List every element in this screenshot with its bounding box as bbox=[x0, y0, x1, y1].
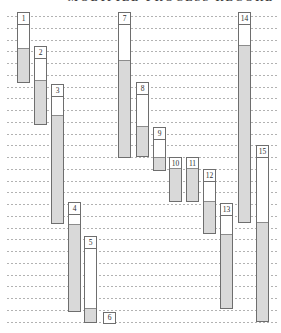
bar-number-label: 13 bbox=[221, 204, 232, 216]
process-bar-1: 1 bbox=[17, 12, 30, 83]
bar-number-label: 15 bbox=[257, 146, 268, 158]
chart-title: MODIFIED PROCESS RECORD bbox=[62, 0, 281, 3]
time-gridline bbox=[7, 228, 278, 229]
process-record-chart: MODIFIED PROCESS RECORD 1234567891011121… bbox=[0, 0, 281, 333]
process-bar-5: 5 bbox=[84, 236, 97, 323]
time-gridline bbox=[7, 286, 278, 287]
work-fill-segment bbox=[239, 45, 250, 222]
work-fill-segment bbox=[52, 115, 63, 223]
work-fill-segment bbox=[221, 234, 232, 308]
work-fill-segment bbox=[35, 80, 46, 124]
work-fill-segment bbox=[85, 308, 96, 322]
process-bar-10: 10 bbox=[169, 157, 182, 202]
process-bar-8: 8 bbox=[136, 82, 149, 157]
process-bar-14: 14 bbox=[238, 12, 251, 223]
time-gridline bbox=[7, 251, 278, 252]
time-gridline bbox=[7, 322, 278, 323]
work-fill-segment bbox=[154, 157, 165, 170]
time-gridline bbox=[7, 275, 278, 276]
process-bar-2: 2 bbox=[34, 46, 47, 125]
bar-number-label: 9 bbox=[154, 128, 165, 140]
process-bar-6: 6 bbox=[103, 312, 116, 324]
process-bar-4: 4 bbox=[68, 202, 81, 312]
process-bar-3: 3 bbox=[51, 84, 64, 224]
process-bar-13: 13 bbox=[220, 203, 233, 309]
work-fill-segment bbox=[18, 48, 29, 82]
work-fill-segment bbox=[204, 201, 215, 233]
bar-number-label: 12 bbox=[204, 170, 215, 182]
time-gridline bbox=[7, 263, 278, 264]
bar-number-label: 5 bbox=[85, 237, 96, 249]
time-gridline bbox=[7, 310, 278, 311]
process-bar-15: 15 bbox=[256, 145, 269, 322]
work-fill-segment bbox=[69, 224, 80, 311]
work-fill-segment bbox=[187, 168, 198, 201]
work-fill-segment bbox=[119, 60, 130, 157]
bar-number-label: 8 bbox=[137, 83, 148, 95]
bar-number-label: 1 bbox=[18, 13, 29, 25]
bar-number-label: 14 bbox=[239, 13, 250, 25]
bar-number-label: 4 bbox=[69, 203, 80, 215]
work-fill-segment bbox=[257, 222, 268, 321]
work-fill-segment bbox=[137, 126, 148, 156]
process-bar-12: 12 bbox=[203, 169, 216, 234]
bar-number-label: 2 bbox=[35, 47, 46, 59]
process-bar-7: 7 bbox=[118, 12, 131, 158]
bar-number-label: 6 bbox=[104, 313, 115, 323]
bar-number-label: 7 bbox=[119, 13, 130, 25]
process-bar-9: 9 bbox=[153, 127, 166, 171]
time-gridline bbox=[7, 239, 278, 240]
work-fill-segment bbox=[170, 168, 181, 201]
bar-number-label: 3 bbox=[52, 85, 63, 97]
process-bar-11: 11 bbox=[186, 157, 199, 202]
time-gridline bbox=[7, 298, 278, 299]
